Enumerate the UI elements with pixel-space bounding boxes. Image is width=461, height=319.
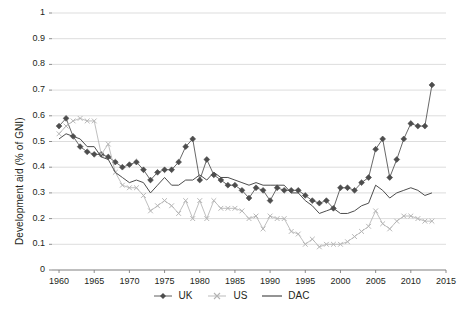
data-point-marker bbox=[261, 226, 266, 231]
data-point-marker bbox=[77, 144, 83, 150]
data-point-marker bbox=[422, 123, 428, 129]
data-point-marker bbox=[401, 136, 407, 142]
data-point-marker bbox=[366, 175, 372, 181]
data-point-marker bbox=[218, 177, 224, 183]
data-point-marker bbox=[366, 224, 371, 229]
data-point-marker bbox=[373, 146, 379, 152]
y-tick-label: 0.2 bbox=[19, 213, 45, 223]
data-point-marker bbox=[141, 193, 146, 198]
data-point-marker bbox=[169, 203, 174, 208]
chart-legend: UKUSDAC bbox=[0, 290, 461, 301]
data-point-marker bbox=[380, 221, 385, 226]
data-point-marker bbox=[260, 187, 266, 193]
data-point-marker bbox=[309, 198, 315, 204]
data-point-marker bbox=[268, 214, 273, 219]
y-tick-label: 0.5 bbox=[19, 136, 45, 146]
data-point-marker bbox=[281, 187, 287, 193]
x-marker-icon bbox=[206, 291, 228, 301]
y-tick-label: 0.3 bbox=[19, 187, 45, 197]
data-point-marker bbox=[57, 131, 62, 136]
data-point-marker bbox=[267, 198, 273, 204]
y-tick-label: 0.4 bbox=[19, 161, 45, 171]
x-tick-label: 1980 bbox=[183, 276, 217, 286]
legend-entry-uk[interactable]: UK bbox=[152, 290, 193, 301]
x-tick-label: 1970 bbox=[112, 276, 146, 286]
data-point-marker bbox=[253, 185, 259, 191]
chart-container: Development aid (% of GNI) 00.10.20.30.4… bbox=[0, 0, 461, 319]
data-point-marker bbox=[162, 167, 168, 173]
data-point-marker bbox=[119, 164, 125, 170]
legend-label: US bbox=[233, 290, 247, 301]
x-tick-label: 1975 bbox=[148, 276, 182, 286]
data-point-marker bbox=[91, 151, 97, 157]
chart-plot-area bbox=[0, 0, 461, 319]
x-tick-label: 1985 bbox=[218, 276, 252, 286]
series-dac bbox=[59, 134, 432, 214]
data-point-marker bbox=[387, 175, 393, 181]
data-point-marker bbox=[394, 219, 399, 224]
data-point-marker bbox=[197, 198, 202, 203]
gridlines-group bbox=[49, 13, 446, 273]
data-point-marker bbox=[162, 198, 167, 203]
data-point-marker bbox=[84, 149, 90, 155]
x-tick-label: 2010 bbox=[394, 276, 428, 286]
data-point-marker bbox=[310, 237, 315, 242]
x-tick-label: 2000 bbox=[323, 276, 357, 286]
data-point-marker bbox=[289, 229, 294, 234]
legend-entry-us[interactable]: US bbox=[206, 290, 247, 301]
data-point-marker bbox=[338, 185, 344, 191]
data-point-marker bbox=[120, 183, 125, 188]
data-point-marker bbox=[155, 203, 160, 208]
data-point-marker bbox=[352, 234, 357, 239]
x-tick-label: 2015 bbox=[429, 276, 461, 286]
data-point-marker bbox=[197, 177, 203, 183]
data-point-marker bbox=[317, 244, 322, 249]
data-point-marker bbox=[380, 136, 386, 142]
x-tick-label: 1990 bbox=[253, 276, 287, 286]
data-point-marker bbox=[359, 229, 364, 234]
data-point-marker bbox=[274, 185, 280, 191]
y-tick-label: 0.1 bbox=[19, 238, 45, 248]
data-point-marker bbox=[176, 211, 181, 216]
data-point-marker bbox=[296, 232, 301, 237]
y-tick-label: 0.9 bbox=[19, 33, 45, 43]
data-point-marker bbox=[225, 182, 231, 188]
legend-label: UK bbox=[179, 290, 193, 301]
data-point-marker bbox=[415, 123, 421, 129]
data-point-marker bbox=[373, 208, 378, 213]
y-tick-label: 1 bbox=[19, 7, 45, 17]
data-point-marker bbox=[232, 182, 238, 188]
series-line-us bbox=[59, 118, 432, 247]
y-tick-label: 0.6 bbox=[19, 110, 45, 120]
data-point-marker bbox=[148, 208, 153, 213]
legend-entry-dac[interactable]: DAC bbox=[261, 290, 309, 301]
data-point-marker bbox=[394, 157, 400, 163]
series-line-dac bbox=[59, 134, 432, 214]
diamond-marker-icon bbox=[152, 291, 174, 301]
data-point-marker bbox=[204, 157, 210, 163]
data-point-marker bbox=[387, 226, 392, 231]
data-point-marker bbox=[316, 200, 322, 206]
series-uk bbox=[56, 82, 435, 211]
data-point-marker bbox=[126, 162, 132, 168]
series-group bbox=[56, 82, 435, 249]
data-point-marker bbox=[429, 82, 435, 88]
y-tick-label: 0.7 bbox=[19, 84, 45, 94]
data-point-marker bbox=[254, 214, 259, 219]
x-tick-label: 2005 bbox=[359, 276, 393, 286]
x-tick-label: 1965 bbox=[77, 276, 111, 286]
data-point-marker bbox=[211, 198, 216, 203]
data-point-marker bbox=[183, 198, 188, 203]
data-point-marker bbox=[302, 193, 308, 199]
y-tick-label: 0 bbox=[19, 264, 45, 274]
data-point-marker bbox=[295, 187, 301, 193]
y-tick-label: 0.8 bbox=[19, 58, 45, 68]
data-point-marker bbox=[345, 239, 350, 244]
data-point-marker bbox=[345, 185, 351, 191]
data-point-marker bbox=[408, 121, 414, 127]
series-us bbox=[57, 116, 435, 249]
data-point-marker bbox=[78, 116, 83, 121]
data-point-marker bbox=[71, 119, 76, 124]
line-marker-icon bbox=[261, 291, 283, 301]
x-tick-label: 1995 bbox=[288, 276, 322, 286]
